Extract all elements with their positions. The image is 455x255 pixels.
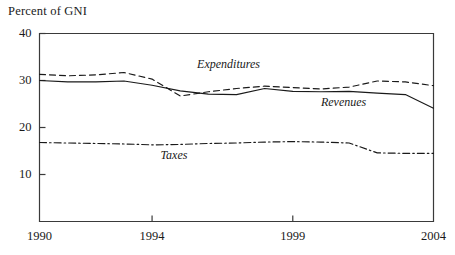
- series-line-taxes: [40, 142, 434, 154]
- chart-plot-area: [0, 0, 455, 255]
- y-axis-tick-label: 30: [8, 73, 32, 88]
- chart-series-group: [40, 73, 434, 154]
- y-axis-tick-label: 20: [8, 120, 32, 135]
- y-axis-tick-label: 10: [8, 167, 32, 182]
- x-axis-tick-label: 2004: [411, 229, 455, 244]
- x-axis-tick-label: 1990: [17, 229, 63, 244]
- x-axis-ticks: [152, 216, 293, 222]
- y-axis-ticks: [40, 34, 46, 175]
- series-label-revenues: Revenues: [321, 95, 366, 110]
- x-axis-tick-label: 1999: [270, 229, 316, 244]
- series-line-revenues: [40, 81, 434, 109]
- series-label-taxes: Taxes: [161, 148, 188, 163]
- x-axis-tick-label: 1994: [129, 229, 175, 244]
- y-axis-tick-label: 40: [8, 26, 32, 41]
- chart-container: Percent of GNI 102030401990199419992004E…: [0, 0, 455, 255]
- series-label-expenditures: Expenditures: [197, 57, 260, 72]
